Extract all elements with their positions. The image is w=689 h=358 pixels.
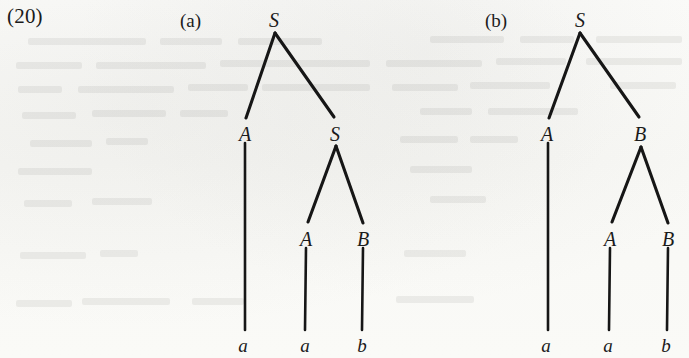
showthrough-mark — [192, 298, 244, 305]
tree-node-a-s-2: S — [330, 124, 340, 144]
tree-edge-a-s-2-to-a-a-2 — [308, 146, 336, 222]
showthrough-mark — [404, 250, 466, 257]
tree-node-b-s-root: S — [575, 10, 585, 30]
tree-edge-b-b-2-to-b-t-3 — [667, 248, 668, 330]
showthrough-mark — [496, 58, 566, 65]
tree-edge-b-s-root-to-b-b-1 — [580, 33, 639, 117]
parse-tree-edges — [0, 0, 689, 358]
tree-node-b-t-1: a — [541, 336, 551, 355]
showthrough-mark — [430, 36, 504, 43]
tree-node-b-a-1: A — [541, 124, 553, 144]
showthrough-mark — [16, 300, 72, 307]
showthrough-mark — [488, 108, 578, 115]
tree-node-a-a-2: A — [300, 229, 312, 249]
showthrough-mark — [520, 36, 574, 43]
tree-node-a-b-1: B — [357, 229, 369, 249]
tree-b-edges — [548, 33, 668, 330]
tree-a-edges — [245, 33, 363, 330]
scanned-page: (20) (a) (b) SASABaab SABABaab — [0, 0, 689, 358]
tree-node-b-a-2: A — [604, 229, 616, 249]
tree-node-b-t-2: a — [603, 336, 613, 355]
showthrough-mark — [386, 60, 482, 67]
showthrough-mark — [420, 108, 472, 115]
tree-edge-b-s-root-to-b-a-1 — [549, 33, 580, 118]
showthrough-mark — [238, 38, 322, 45]
tree-node-a-t-3: b — [357, 336, 367, 355]
showthrough-mark — [106, 138, 148, 145]
showthrough-mark — [596, 36, 682, 43]
tree-edge-a-a-2-to-a-t-2 — [305, 248, 306, 330]
showthrough-mark — [96, 62, 206, 69]
showthrough-mark — [92, 198, 152, 205]
showthrough-mark — [220, 60, 370, 67]
showthrough-mark — [400, 136, 458, 143]
tree-edge-a-s-root-to-a-s-2 — [275, 33, 334, 117]
tree-node-a-t-2: a — [300, 336, 310, 355]
tree-node-a-s-root: S — [269, 10, 279, 30]
showthrough-mark — [392, 84, 458, 91]
tree-node-b-b-1: B — [634, 124, 646, 144]
showthrough-mark — [22, 112, 76, 119]
showthrough-mark — [396, 296, 474, 303]
showthrough-mark — [180, 110, 228, 117]
showthrough-mark — [610, 82, 676, 89]
tree-edge-b-b-1-to-b-a-2 — [612, 147, 641, 222]
tree-edge-a-s-root-to-a-a-1 — [246, 33, 275, 118]
panel-label-a: (a) — [180, 11, 201, 30]
showthrough-mark — [30, 140, 92, 147]
showthrough-mark — [100, 250, 138, 257]
tree-node-a-t-1: a — [238, 336, 248, 355]
page-showthrough-texture — [0, 0, 689, 358]
showthrough-mark — [18, 168, 92, 175]
showthrough-mark — [92, 110, 166, 117]
showthrough-mark — [78, 86, 174, 93]
showthrough-mark — [262, 84, 370, 91]
tree-node-b-t-3: b — [661, 336, 671, 355]
showthrough-mark — [410, 166, 472, 173]
panel-label-b: (b) — [485, 11, 507, 30]
showthrough-mark — [160, 38, 222, 45]
tree-edge-b-b-1-to-b-b-2 — [641, 147, 668, 223]
showthrough-mark — [18, 86, 62, 93]
showthrough-mark — [24, 200, 72, 207]
showthrough-mark — [28, 38, 146, 45]
tree-edge-a-s-2-to-a-b-1 — [336, 146, 363, 223]
tree-node-b-b-2: B — [662, 229, 674, 249]
showthrough-mark — [188, 84, 248, 91]
tree-edge-a-b-1-to-a-t-3 — [362, 248, 363, 330]
tree-node-a-a-1: A — [239, 124, 251, 144]
showthrough-mark — [470, 82, 550, 89]
showthrough-mark — [470, 136, 518, 143]
showthrough-mark — [82, 298, 170, 305]
showthrough-mark — [586, 58, 682, 65]
tree-edge-b-a-2-to-b-t-2 — [609, 248, 610, 330]
example-number: (20) — [7, 6, 43, 27]
showthrough-mark — [20, 252, 86, 259]
showthrough-mark — [430, 196, 486, 203]
showthrough-mark — [16, 62, 82, 69]
